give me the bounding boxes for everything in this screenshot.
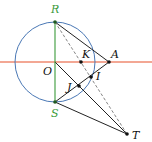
point-J — [77, 84, 81, 88]
label-A: A — [110, 48, 119, 61]
label-O: O — [43, 65, 52, 78]
label-J: J — [65, 81, 72, 94]
point-R — [53, 20, 57, 24]
label-T: T — [132, 129, 141, 142]
point-S — [53, 100, 57, 104]
label-I: I — [95, 70, 101, 83]
segment-ST — [55, 102, 127, 134]
geometry-diagram: RSOKAIJT — [0, 0, 152, 142]
label-K: K — [81, 48, 91, 61]
segment-OT — [55, 62, 127, 134]
point-I — [89, 75, 93, 79]
point-T — [125, 132, 129, 136]
label-R: R — [50, 3, 59, 16]
segment-AS — [55, 62, 109, 102]
label-S: S — [51, 107, 59, 120]
